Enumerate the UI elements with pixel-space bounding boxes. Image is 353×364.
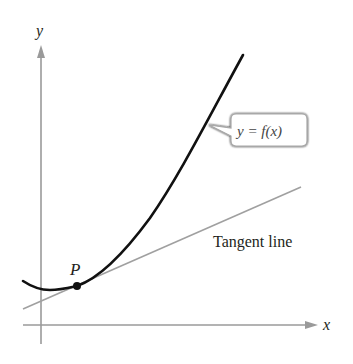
x-axis-label: x: [322, 316, 330, 333]
y-axis-arrow-icon: [37, 45, 45, 58]
tangent-line-diagram: y x Tangent line P y = f(x): [0, 0, 353, 364]
y-axis-label: y: [34, 22, 44, 40]
x-axis: [23, 321, 318, 329]
function-label: y = f(x): [235, 123, 282, 140]
x-axis-arrow-icon: [305, 321, 318, 329]
tangent-line-label: Tangent line: [213, 233, 292, 251]
function-curve: [23, 55, 243, 290]
point-p-label: P: [69, 260, 80, 279]
point-p-marker: [73, 282, 81, 290]
